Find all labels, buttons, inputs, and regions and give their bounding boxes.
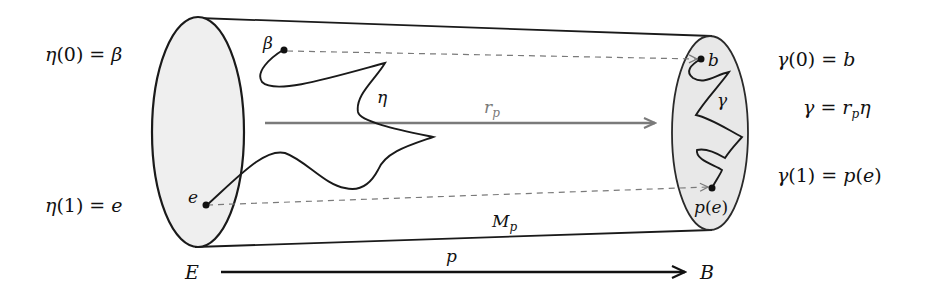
eq-gamma-def: γ = rpη bbox=[803, 96, 871, 121]
eq-gamma1: γ(1) = p(e) bbox=[777, 164, 882, 186]
point-b bbox=[698, 56, 705, 63]
left-disk-e bbox=[152, 17, 244, 247]
point-pe bbox=[709, 185, 716, 192]
fibration-diagram: β e b p(e) η γ rp Mp E B p η(0) = β η(1)… bbox=[0, 0, 928, 293]
label-eta: η bbox=[377, 87, 388, 107]
cylinder-top-edge bbox=[198, 18, 712, 36]
dashed-beta-to-b bbox=[287, 51, 697, 59]
cylinder-bottom-edge bbox=[195, 230, 712, 247]
label-p: p bbox=[446, 246, 457, 266]
eq-eta0: η(0) = β bbox=[45, 43, 122, 65]
label-gamma: γ bbox=[717, 90, 728, 110]
label-B: B bbox=[699, 261, 714, 283]
point-beta bbox=[281, 47, 288, 54]
label-mp: Mp bbox=[491, 211, 517, 234]
label-pe: p(e) bbox=[694, 197, 728, 217]
label-E: E bbox=[184, 261, 199, 283]
point-e bbox=[203, 202, 210, 209]
eq-eta1: η(1) = e bbox=[45, 194, 123, 216]
label-rp: rp bbox=[484, 97, 500, 120]
eq-gamma0: γ(0) = b bbox=[777, 48, 855, 70]
label-b: b bbox=[708, 50, 719, 70]
label-beta: β bbox=[262, 33, 273, 53]
dashed-e-to-pe bbox=[207, 187, 708, 205]
label-e: e bbox=[188, 187, 198, 207]
